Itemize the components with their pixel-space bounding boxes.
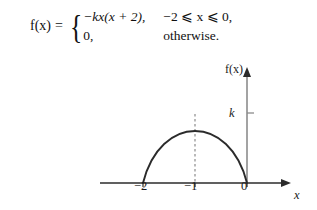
- equals-sign: =: [55, 17, 63, 36]
- left-brace: {: [70, 12, 82, 42]
- x-tick-label-zero: 0: [241, 179, 247, 194]
- piecewise-function-definition: f(x) = { −kx(x + 2), −2 ⩽ x ⩽ 0, 0, othe…: [30, 8, 232, 45]
- case-1-expression: −kx(x + 2),: [83, 8, 145, 26]
- function-graph: f(x) k −2 −1 0 x: [0, 58, 317, 210]
- y-axis-arrowhead: [243, 67, 251, 77]
- function-name: f(x): [30, 17, 51, 36]
- y-tick-label-k: k: [229, 106, 235, 121]
- case-2-expression: 0,: [83, 27, 145, 45]
- x-axis-arrowhead: [281, 179, 291, 187]
- figure-root: f(x) = { −kx(x + 2), −2 ⩽ x ⩽ 0, 0, othe…: [0, 0, 317, 210]
- graph-canvas: [0, 58, 317, 210]
- x-tick-label-minus1: −1: [184, 179, 197, 194]
- y-axis-label: f(x): [225, 62, 243, 77]
- cases-grid: −kx(x + 2), −2 ⩽ x ⩽ 0, 0, otherwise.: [83, 8, 232, 45]
- x-tick-label-minus2: −2: [134, 179, 147, 194]
- case-1-condition: −2 ⩽ x ⩽ 0,: [161, 8, 232, 26]
- x-axis-label: x: [294, 188, 300, 203]
- case-2-condition: otherwise.: [161, 27, 232, 45]
